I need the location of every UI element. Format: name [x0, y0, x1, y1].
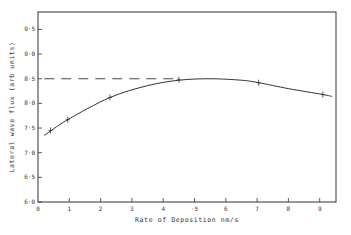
y-axis-ticks: 6·06·57·07·58·08·59·09·5: [24, 25, 42, 205]
x-tick-label: ·5: [191, 205, 199, 212]
line-chart: 6·06·57·07·58·08·59·09·5 01234·56789 Lat…: [0, 0, 351, 235]
x-tick-label: 6: [224, 205, 228, 212]
x-tick-label: 0: [36, 205, 40, 212]
y-tick-label: 6·0: [24, 198, 35, 205]
x-tick-label: 4: [161, 205, 165, 212]
y-tick-label: 6·5: [24, 173, 35, 180]
fitted-curve: [44, 79, 332, 136]
x-tick-label: 2: [99, 205, 103, 212]
y-axis-label: Lateral wave flux (arb units): [8, 42, 16, 173]
y-tick-label: 7·5: [24, 124, 35, 131]
x-tick-label: 8: [287, 205, 291, 212]
y-tick-label: 9·0: [24, 50, 35, 57]
y-tick-label: 7·0: [24, 149, 35, 156]
x-axis-ticks: 01234·56789: [36, 198, 322, 212]
series-layer: [44, 77, 332, 136]
plot-frame: [38, 12, 336, 202]
y-tick-label: 8·5: [24, 75, 35, 82]
y-tick-label: 8·0: [24, 99, 35, 106]
x-tick-label: 7: [255, 205, 259, 212]
y-tick-label: 9·5: [24, 25, 35, 32]
x-tick-label: 9: [318, 205, 322, 212]
x-tick-label: 1: [67, 205, 71, 212]
x-axis-label: Rate of Deposition nm/s: [135, 216, 239, 224]
x-tick-label: 3: [130, 205, 134, 212]
